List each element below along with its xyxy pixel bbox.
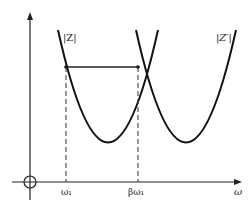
x-axis-arrow-icon bbox=[234, 179, 242, 185]
label-zprime: |Z′| bbox=[216, 32, 232, 44]
curve-z bbox=[58, 30, 158, 143]
label-beta-omega1: βω₁ bbox=[128, 187, 144, 197]
curve-zprime bbox=[136, 30, 236, 143]
label-omega-axis: ω bbox=[234, 186, 242, 197]
impedance-diagram: |Z| |Z′| ω₁ βω₁ ω bbox=[0, 0, 249, 210]
y-axis-arrow-icon bbox=[27, 12, 33, 20]
label-z: |Z| bbox=[63, 32, 77, 44]
label-omega1: ω₁ bbox=[61, 187, 72, 197]
